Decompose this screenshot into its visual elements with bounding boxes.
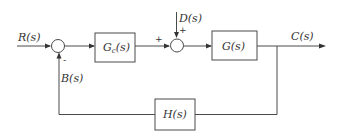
- arrow-icon: [164, 44, 170, 49]
- feedback-label-b: B(s): [60, 72, 83, 85]
- error-signal-path: [65, 44, 96, 49]
- disturbance-signal-path: D(s) +: [174, 12, 202, 38]
- arrow-icon: [57, 53, 62, 59]
- arrow-icon: [319, 44, 326, 49]
- controller-output-path: +: [135, 34, 170, 49]
- input-label-r: R(s): [17, 31, 41, 44]
- arrow-icon: [89, 44, 95, 49]
- feedback-block-label: H(s): [162, 108, 187, 121]
- input-signal-path: R(s): [17, 31, 51, 49]
- controller-block: Gc(s): [95, 33, 135, 62]
- feedback-block: H(s): [155, 99, 195, 130]
- disturbance-label-d: D(s): [178, 12, 202, 25]
- summing-junction-2: [171, 39, 184, 52]
- plant-block: G(s): [212, 31, 257, 60]
- plant-label: G(s): [222, 40, 245, 53]
- output-label-c: C(s): [291, 30, 314, 43]
- arrow-icon: [206, 44, 212, 49]
- summing-junction-1: [52, 40, 65, 53]
- block-diagram: R(s) - Gc(s) + D(s) + G(s) C(s: [0, 0, 339, 138]
- feedback-minus-sign: -: [63, 55, 66, 65]
- plant-input-path: [184, 44, 213, 49]
- output-signal-path: C(s): [257, 30, 326, 49]
- forward-plus-sign: +: [155, 34, 163, 44]
- arrow-icon: [45, 44, 51, 49]
- disturbance-plus-sign: +: [179, 25, 187, 35]
- controller-label: Gc(s): [103, 41, 130, 55]
